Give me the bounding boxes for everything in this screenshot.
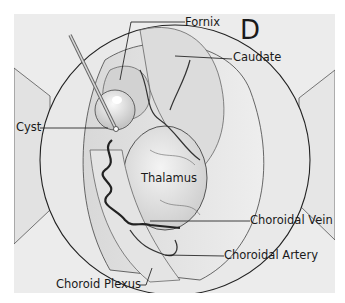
- label-choroid-plexus: Choroid Plexus: [56, 279, 141, 291]
- label-thalamus: Thalamus: [141, 173, 197, 185]
- label-choroidal-vein: Choroidal Vein: [250, 215, 333, 227]
- label-caudate: Caudate: [233, 52, 281, 64]
- label-fornix: Fornix: [185, 17, 220, 29]
- label-choroidal-artery: Choroidal Artery: [224, 250, 318, 262]
- label-cyst: Cyst: [16, 122, 41, 134]
- panel-letter: D: [240, 17, 260, 43]
